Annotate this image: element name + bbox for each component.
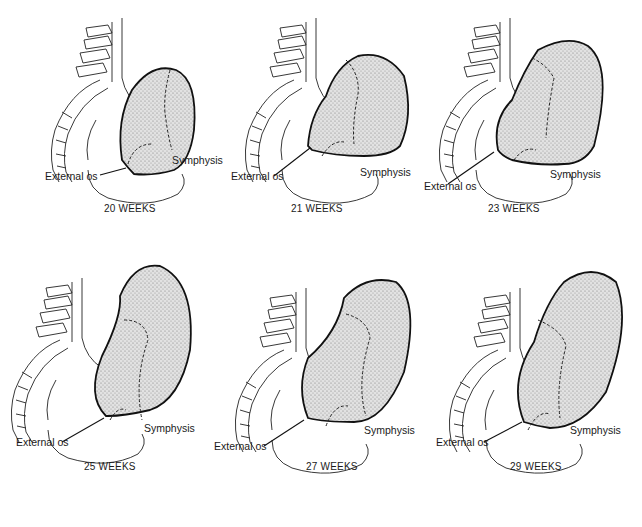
panel-caption: 23 WEEKS xyxy=(488,203,540,214)
external-os-label: External os xyxy=(45,170,98,182)
external-os-label: External os xyxy=(424,180,477,192)
panel-23-weeks: External os Symphysis 23 WEEKS xyxy=(428,0,642,220)
panel-caption: 20 WEEKS xyxy=(104,203,156,214)
uterus-diagram-21-weeks xyxy=(214,0,428,220)
symphysis-label: Symphysis xyxy=(570,424,621,436)
uterus-diagram-29-weeks xyxy=(428,250,642,527)
symphysis-label: Symphysis xyxy=(360,166,411,178)
symphysis-label: Symphysis xyxy=(550,168,601,180)
external-os-label: External os xyxy=(231,170,284,182)
uterus-diagram-27-weeks xyxy=(214,250,428,527)
panel-29-weeks: External os Symphysis 29 WEEKS xyxy=(428,250,642,527)
panel-27-weeks: External os Symphysis 27 WEEKS xyxy=(214,250,428,527)
panel-25-weeks: External os Symphysis 25 WEEKS xyxy=(0,250,214,527)
external-os-label: External os xyxy=(16,436,69,448)
panel-caption: 21 WEEKS xyxy=(291,203,343,214)
uterus-diagram-25-weeks xyxy=(0,250,214,527)
panel-caption: 27 WEEKS xyxy=(306,461,358,472)
uterus-diagram-20-weeks xyxy=(0,0,214,220)
panel-20-weeks: External os Symphysis 20 WEEKS xyxy=(0,0,214,220)
external-os-label: External os xyxy=(214,440,267,452)
symphysis-label: Symphysis xyxy=(144,422,195,434)
panel-21-weeks: External os Symphysis 21 WEEKS xyxy=(214,0,428,220)
panel-caption: 25 WEEKS xyxy=(84,461,136,472)
symphysis-label: Symphysis xyxy=(364,424,415,436)
external-os-label: External os xyxy=(436,436,489,448)
panel-caption: 29 WEEKS xyxy=(510,461,562,472)
